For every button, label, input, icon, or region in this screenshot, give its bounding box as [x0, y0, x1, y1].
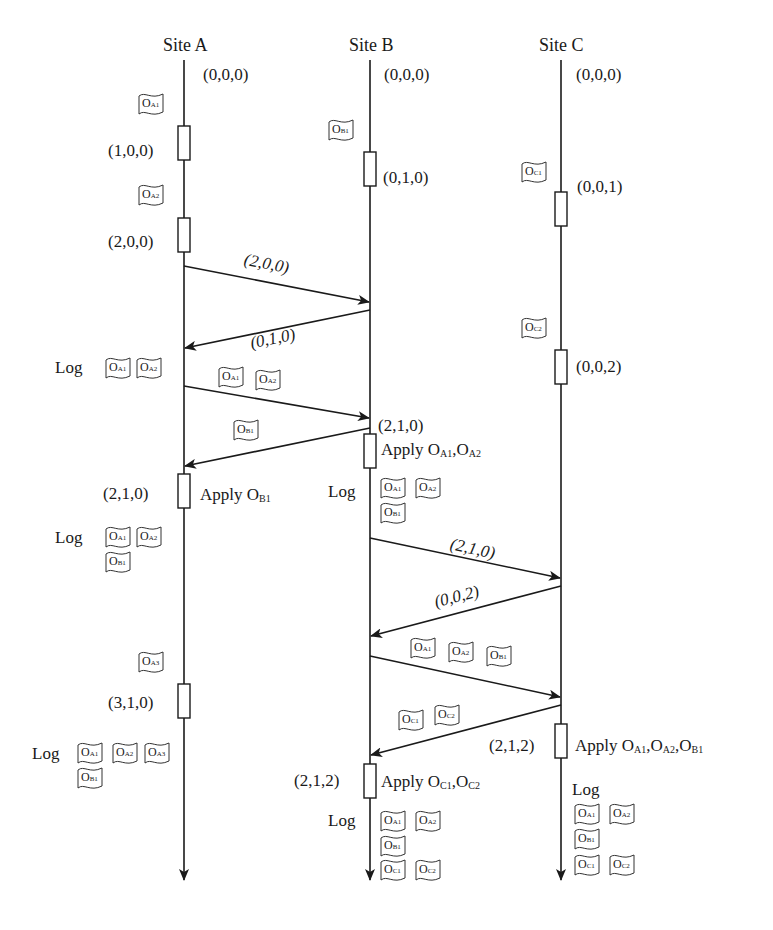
- operation-flag-icon: OC2: [413, 858, 443, 884]
- operation-flag-icon: OA1: [572, 802, 602, 828]
- operation-flag-icon: OA2: [607, 802, 637, 828]
- site-c-title: Site C: [539, 37, 584, 54]
- operation-flag-icon: OB1: [484, 644, 514, 670]
- site-a-clock-4: (3,1,0): [108, 694, 153, 711]
- site-b-apply-label-2: Apply OC1,OC2: [381, 773, 480, 794]
- site-a-clock-3: (2,1,0): [103, 485, 148, 502]
- operation-flag-icon: OA2: [110, 741, 140, 767]
- site-b-apply-label-1: Apply OA1,OA2: [381, 441, 481, 462]
- operation-flag-icon: OB1: [378, 501, 408, 527]
- event-box-b2: [364, 434, 376, 468]
- site-a-initial-clock: (0,0,0): [203, 66, 248, 83]
- site-c-log-label: Log: [572, 781, 599, 798]
- operation-flag-icon: OC1: [572, 853, 602, 879]
- site-c-apply-label: Apply OA1,OA2,OB1: [575, 737, 703, 758]
- operation-flag-icon: OA2: [134, 356, 164, 382]
- site-c-clock-2: (0,0,2): [576, 358, 621, 375]
- site-b-title: Site B: [349, 37, 394, 54]
- operation-flag-icon: OB1: [572, 827, 602, 853]
- msg-b-to-a-ops: [185, 428, 370, 466]
- site-c-initial-clock: (0,0,0): [576, 66, 621, 83]
- operation-flag-icon: OA2: [134, 525, 164, 551]
- operation-flag-icon: OA1: [216, 365, 246, 391]
- site-c-clock-1: (0,0,1): [577, 178, 622, 195]
- operation-flag-icon: OA3: [136, 650, 166, 676]
- event-box-c1: [555, 192, 567, 226]
- operation-flag-icon: OC1: [519, 160, 549, 186]
- site-a-log-label-1: Log: [55, 359, 82, 376]
- operation-flag-icon: OC1: [396, 708, 426, 734]
- site-a-clock-2: (2,0,0): [108, 233, 153, 250]
- site-b-log-label-2: Log: [328, 812, 355, 829]
- site-b-clock-3: (2,1,2): [294, 772, 339, 789]
- operation-flag-icon: OA1: [103, 356, 133, 382]
- operation-flag-icon: OA3: [142, 741, 172, 767]
- site-a-apply-label: Apply OB1: [200, 486, 271, 507]
- operation-flag-icon: OC2: [519, 316, 549, 342]
- operation-flag-icon: OA1: [75, 741, 105, 767]
- operation-flag-icon: OA1: [378, 809, 408, 835]
- operation-flag-icon: OB1: [231, 418, 261, 444]
- operation-flag-icon: OA1: [103, 525, 133, 551]
- site-a-title: Site A: [163, 37, 208, 54]
- site-c-clock-3: (2,1,2): [489, 737, 534, 754]
- operation-flag-icon: OA2: [413, 476, 443, 502]
- operation-flag-icon: OC1: [378, 858, 408, 884]
- site-b-log-label-1: Log: [328, 483, 355, 500]
- event-box-a1: [178, 126, 190, 160]
- operation-flag-icon: OA1: [408, 636, 438, 662]
- operation-flag-icon: OA1: [378, 476, 408, 502]
- event-box-b3: [364, 764, 376, 798]
- operation-flag-icon: OB1: [75, 766, 105, 792]
- operation-flag-icon: OA2: [446, 640, 476, 666]
- event-box-c3: [555, 724, 567, 758]
- operation-flag-icon: OC2: [607, 853, 637, 879]
- operation-flag-icon: OC2: [432, 703, 462, 729]
- event-box-b1: [364, 152, 376, 186]
- operation-flag-icon: OA2: [413, 809, 443, 835]
- site-a-log-label-2: Log: [55, 529, 82, 546]
- event-box-a2: [178, 218, 190, 252]
- event-box-a4: [178, 684, 190, 718]
- site-a-clock-1: (1,0,0): [108, 142, 153, 159]
- site-a-log-label-3: Log: [32, 745, 59, 762]
- event-box-c2: [555, 350, 567, 384]
- operation-flag-icon: OB1: [378, 834, 408, 860]
- operation-flag-icon: OA2: [253, 368, 283, 394]
- site-b-initial-clock: (0,0,0): [384, 66, 429, 83]
- site-b-clock-1: (0,1,0): [383, 169, 428, 186]
- operation-flag-icon: OB1: [103, 550, 133, 576]
- operation-flag-icon: OA2: [136, 183, 166, 209]
- event-box-a3: [178, 474, 190, 508]
- operation-flag-icon: OB1: [326, 118, 356, 144]
- operation-flag-icon: OA1: [136, 92, 166, 118]
- site-b-clock-2: (2,1,0): [378, 417, 423, 434]
